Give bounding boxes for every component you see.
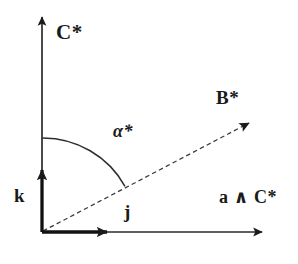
alpha-star-angle-label: α* [113, 122, 133, 140]
b-star-vector-line [43, 123, 249, 231]
c-star-axis-label: C* [56, 22, 83, 43]
figure-root: C* B* α* k j a ∧ C* [0, 0, 298, 264]
j-vector-label: j [124, 202, 130, 221]
a-wedge-c-star-axis-label: a ∧ C* [219, 188, 277, 206]
diagram-canvas [0, 0, 298, 264]
alpha-star-arc-path [42, 138, 125, 186]
b-star-vector-label: B* [216, 88, 239, 107]
k-vector-label: k [14, 186, 25, 205]
